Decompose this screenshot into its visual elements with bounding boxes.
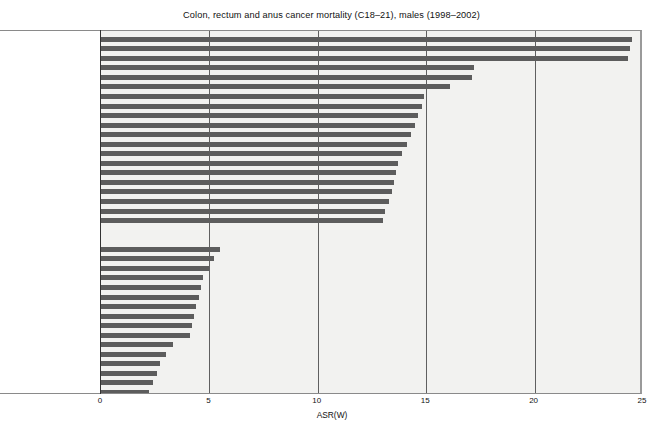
bar-row: Germany [101,197,640,207]
bar [101,56,628,61]
bar [101,94,424,99]
bar [101,247,220,252]
bar [101,151,402,156]
bar [101,84,450,89]
bar-row: Portugal [101,188,640,198]
bar [101,218,383,223]
bar [101,113,418,118]
bar [101,352,166,357]
bar-row: Ukraine [101,92,640,102]
x-tick-label: 5 [206,396,210,405]
x-axis: ASR(W) 0510152025 [22,394,642,434]
bar [101,161,398,166]
bar-row: Mauritius [101,283,640,293]
bar-row: Croatia [101,64,640,74]
bar-row: Uzbekistan [101,350,640,360]
bar [101,65,474,70]
x-tick-label: 25 [638,396,647,405]
bar-row: Azerbaijan [101,293,640,303]
bar [101,275,203,280]
bar-row: Bulgaria [101,169,640,179]
bar [101,199,389,204]
bar-row: Kuwait [101,341,640,351]
bar [101,75,472,80]
bar-row: Russian Federation [101,102,640,112]
bar-row: Ecuador [101,388,640,393]
bar [101,256,214,261]
bar-row: UK, Scotland [101,140,640,150]
bar-row: Estonia [101,207,640,217]
bar [101,37,632,42]
bar-row: Panama [101,322,640,332]
bar-row: Denmark [101,131,640,141]
bar-row: Colombia [101,331,640,341]
bar [101,189,392,194]
bar [101,314,194,319]
bar [101,123,415,128]
bar [101,371,157,376]
bar [101,361,160,366]
plot-inner: SlovakiaHungaryCzech RepublicCroatiaSlov… [23,31,640,393]
bar [101,170,396,175]
bar-row: Singapore [101,178,640,188]
bar [101,266,209,271]
bar-row: New Zealand [101,83,640,93]
bar-row: Latvia [101,150,640,160]
bar-row: Chile [101,264,640,274]
bar [101,390,149,393]
bar-row: Hungary [101,45,640,55]
bar-row: Czech Republic [101,54,640,64]
bar [101,285,201,290]
bar-row: Albania [101,379,640,389]
chart-title: Colon, rectum and anus cancer mortality … [0,10,663,20]
bar [101,342,173,347]
bar [101,132,411,137]
x-tick-label: 0 [98,396,102,405]
category-label-gutter [0,30,100,394]
bar [101,180,394,185]
value-axis-baseline [100,30,101,394]
bar [101,304,196,309]
bar-row: Tajikistan [101,369,640,379]
bar-row: Slovenia [101,73,640,83]
bar [101,333,190,338]
bar-row: Slovakia [101,35,640,45]
x-tick-label: 20 [529,396,538,405]
plot-area: SlovakiaHungaryCzech RepublicCroatiaSlov… [22,30,642,394]
x-tick-label: 15 [421,396,430,405]
bar-row: Brazil [101,312,640,322]
bar-row: Austria [101,216,640,226]
bar-row: Belarus [101,121,640,131]
bar [101,323,192,328]
bar-row: Lithuania [101,159,640,169]
x-tick-label: 10 [312,396,321,405]
bar [101,142,407,147]
bar [101,104,422,109]
bar-row: Mexico [101,360,640,370]
bar-row: Costa Rice [101,255,640,265]
bar [101,209,385,214]
bar [101,295,199,300]
bar-row: Venezuela [101,302,640,312]
bar-row: South Africa [101,274,640,284]
bar-chart-figure: Colon, rectum and anus cancer mortality … [0,0,663,434]
bar-row: Kyrgyzstan [101,245,640,255]
x-axis-title: ASR(W) [22,410,642,420]
bar [101,380,153,385]
bar [101,46,630,51]
bar-row: Ireland [101,111,640,121]
